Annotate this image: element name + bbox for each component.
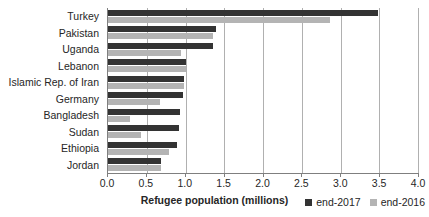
gridline bbox=[418, 8, 419, 173]
category-label: Uganda bbox=[0, 41, 104, 58]
category-label: Ethiopia bbox=[0, 140, 104, 157]
bar-end-2016 bbox=[108, 99, 160, 105]
category-label: Bangladesh bbox=[0, 107, 104, 124]
chart-legend: end-2017end-2016 bbox=[305, 196, 425, 208]
x-tick-label: 2.0 bbox=[255, 177, 270, 189]
x-tick-label: 3.0 bbox=[333, 177, 348, 189]
x-tick-label: 1.0 bbox=[177, 177, 192, 189]
bar-group bbox=[108, 41, 418, 58]
bar-group bbox=[108, 157, 418, 174]
category-label: Islamic Rep. of Iran bbox=[0, 74, 104, 91]
legend-label: end-2016 bbox=[381, 196, 425, 208]
x-axis-tick-labels: 0.00.51.01.52.02.53.03.54.0 bbox=[107, 177, 418, 191]
legend-item[interactable]: end-2017 bbox=[305, 196, 360, 208]
bar-end-2017 bbox=[108, 158, 161, 164]
bar-end-2017 bbox=[108, 142, 177, 148]
bar-end-2016 bbox=[108, 50, 181, 56]
bar-end-2016 bbox=[108, 165, 161, 171]
bar-group bbox=[108, 124, 418, 141]
bar-end-2016 bbox=[108, 83, 184, 89]
legend-swatch-icon bbox=[370, 199, 377, 206]
bar-end-2017 bbox=[108, 59, 186, 65]
bar-end-2017 bbox=[108, 10, 378, 16]
bar-groups bbox=[108, 8, 418, 173]
bar-end-2016 bbox=[108, 66, 186, 72]
bar-end-2017 bbox=[108, 26, 216, 32]
category-label: Germany bbox=[0, 91, 104, 108]
bar-end-2017 bbox=[108, 43, 213, 49]
x-tick-label: 4.0 bbox=[411, 177, 426, 189]
category-label: Lebanon bbox=[0, 58, 104, 75]
bar-group bbox=[108, 91, 418, 108]
bar-end-2016 bbox=[108, 149, 169, 155]
x-tick-label: 2.5 bbox=[294, 177, 309, 189]
x-tick-label: 0.5 bbox=[139, 177, 154, 189]
category-label: Turkey bbox=[0, 8, 104, 25]
x-tick-label: 3.5 bbox=[372, 177, 387, 189]
bar-group bbox=[108, 25, 418, 42]
bar-end-2017 bbox=[108, 125, 179, 131]
bar-group bbox=[108, 107, 418, 124]
bar-end-2017 bbox=[108, 109, 180, 115]
x-tick-label: 0.0 bbox=[100, 177, 115, 189]
legend-label: end-2017 bbox=[316, 196, 360, 208]
bar-group bbox=[108, 74, 418, 91]
category-label: Sudan bbox=[0, 124, 104, 141]
legend-swatch-icon bbox=[305, 199, 312, 206]
refugee-population-bar-chart: TurkeyPakistanUgandaLebanonIslamic Rep. … bbox=[0, 0, 429, 217]
category-label: Pakistan bbox=[0, 25, 104, 42]
bar-end-2017 bbox=[108, 76, 184, 82]
bar-end-2016 bbox=[108, 17, 330, 23]
legend-item[interactable]: end-2016 bbox=[370, 196, 425, 208]
bar-group bbox=[108, 140, 418, 157]
category-axis: TurkeyPakistanUgandaLebanonIslamic Rep. … bbox=[0, 8, 104, 173]
plot-area bbox=[107, 8, 418, 173]
bar-end-2017 bbox=[108, 92, 183, 98]
bar-group bbox=[108, 8, 418, 25]
category-label: Jordan bbox=[0, 157, 104, 174]
bar-end-2016 bbox=[108, 116, 130, 122]
bar-end-2016 bbox=[108, 33, 213, 39]
bar-group bbox=[108, 58, 418, 75]
bar-end-2016 bbox=[108, 132, 141, 138]
x-tick-label: 1.5 bbox=[216, 177, 231, 189]
x-axis-title-text: Refugee population (millions) bbox=[141, 194, 289, 206]
